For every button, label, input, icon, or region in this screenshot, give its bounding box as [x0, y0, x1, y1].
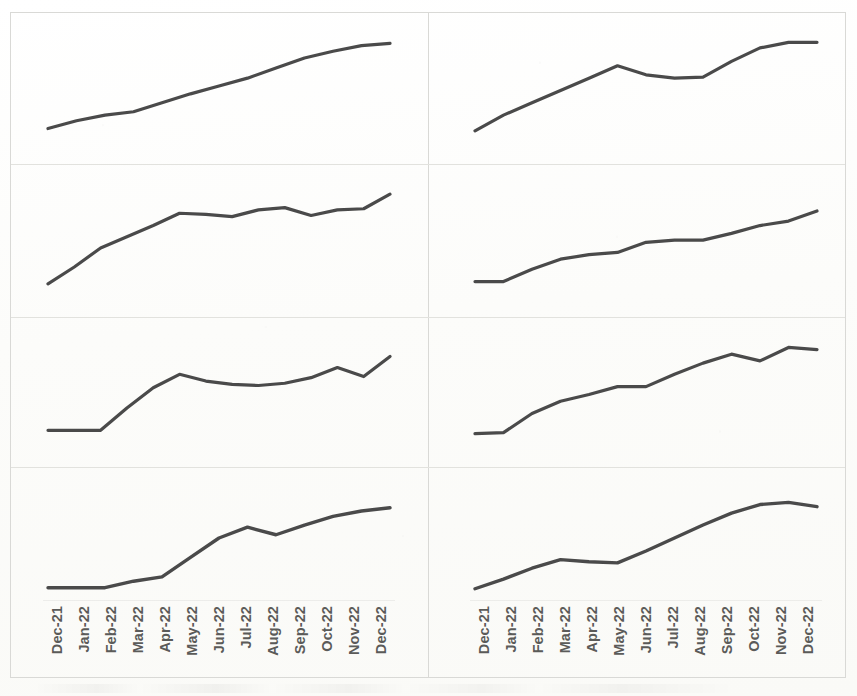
x-axis-tick-label: Dec-21	[476, 606, 492, 654]
x-axis-tick-label: Apr-22	[157, 606, 173, 653]
column-divider	[428, 13, 429, 677]
x-axis-tick-label: Mar-22	[557, 606, 573, 653]
x-axis-tick: Sep-22	[714, 604, 741, 696]
x-axis-tick-label: Aug-22	[692, 606, 708, 656]
x-axis-tick-label: May-22	[184, 606, 200, 656]
x-axis-tick: Aug-22	[687, 604, 714, 696]
document-page: Dec-21Jan-22Feb-22Mar-22Apr-22May-22Jun-…	[0, 0, 857, 696]
x-axis-tick-label: Jul-22	[665, 606, 681, 649]
x-axis-tick-label: Dec-21	[49, 606, 65, 654]
x-axis-tick-label: Jan-22	[503, 606, 519, 653]
x-axis-tick: Jun-22	[205, 604, 232, 696]
x-axis-tick: May-22	[605, 604, 632, 696]
x-axis-tick-label: Jul-22	[238, 606, 254, 649]
row-divider-1	[11, 164, 845, 165]
x-axis-tick: Feb-22	[97, 604, 124, 696]
x-axis-tick: Dec-21	[470, 604, 497, 696]
x-axis-tick: Jul-22	[660, 604, 687, 696]
x-axis-labels-left-column: Dec-21Jan-22Feb-22Mar-22Apr-22May-22Jun-…	[43, 604, 395, 696]
x-axis-tick: Dec-21	[43, 604, 70, 696]
x-axis-tick: Nov-22	[341, 604, 368, 696]
x-axis-tick: Apr-22	[151, 604, 178, 696]
x-axis-tick-label: Sep-22	[292, 606, 308, 654]
x-axis-tick: Jan-22	[497, 604, 524, 696]
x-axis-tick-label: Dec-22	[800, 606, 816, 654]
x-axis-labels-right-column: Dec-21Jan-22Feb-22Mar-22Apr-22May-22Jun-…	[470, 604, 822, 696]
x-axis-tick-label: Feb-22	[530, 606, 546, 653]
x-axis-tick: Oct-22	[314, 604, 341, 696]
x-axis-tick: Mar-22	[124, 604, 151, 696]
x-axis-tick: Jan-22	[70, 604, 97, 696]
x-axis-tick-label: Sep-22	[719, 606, 735, 654]
x-axis-tick: Aug-22	[260, 604, 287, 696]
x-axis-tick-label: Aug-22	[265, 606, 281, 656]
row-divider-3	[11, 467, 845, 468]
x-axis-tick-label: Jun-22	[211, 606, 227, 653]
x-axis-tick-label: Jan-22	[76, 606, 92, 653]
x-axis-tick-label: Nov-22	[773, 606, 789, 655]
x-axis-tick-label: Oct-22	[319, 606, 335, 652]
x-axis-tick: Oct-22	[741, 604, 768, 696]
x-axis-tick: Nov-22	[768, 604, 795, 696]
row-divider-2	[11, 317, 845, 318]
x-axis-tick: Dec-22	[795, 604, 822, 696]
x-axis-tick: Jun-22	[632, 604, 659, 696]
x-axis-tick: Mar-22	[551, 604, 578, 696]
x-axis-tick: Sep-22	[287, 604, 314, 696]
figure-frame	[10, 12, 846, 678]
x-axis-tick-label: Jun-22	[638, 606, 654, 653]
x-axis-tick-label: Mar-22	[130, 606, 146, 653]
x-axis-tick-label: Apr-22	[584, 606, 600, 653]
x-axis-tick-label: Nov-22	[346, 606, 362, 655]
x-axis-tick-label: May-22	[611, 606, 627, 656]
x-axis-tick-label: Feb-22	[103, 606, 119, 653]
x-axis-tick: Jul-22	[233, 604, 260, 696]
x-axis-tick: May-22	[178, 604, 205, 696]
x-axis-tick-label: Dec-22	[373, 606, 389, 654]
x-axis-tick: Apr-22	[578, 604, 605, 696]
x-axis-tick: Feb-22	[524, 604, 551, 696]
x-axis-tick-label: Oct-22	[746, 606, 762, 652]
x-axis-tick: Dec-22	[368, 604, 395, 696]
